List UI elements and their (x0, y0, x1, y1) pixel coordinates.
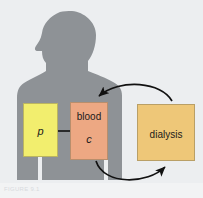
compartment-label-blood-concentration: c (71, 134, 107, 145)
figure-container: p blood c dialysis FIGURE 9.1 (0, 0, 203, 198)
figure-caption: FIGURE 9.1 (4, 186, 40, 192)
compartment-box-plasma[interactable]: p (23, 103, 58, 157)
diagram-graphics-layer (0, 0, 203, 198)
compartment-label-plasma: p (24, 126, 57, 137)
compartment-title-blood: blood (71, 112, 107, 122)
compartment-label-dialysis: dialysis (138, 130, 194, 140)
compartment-box-dialysis[interactable]: dialysis (137, 104, 195, 161)
compartment-box-blood[interactable]: blood c (70, 102, 108, 160)
